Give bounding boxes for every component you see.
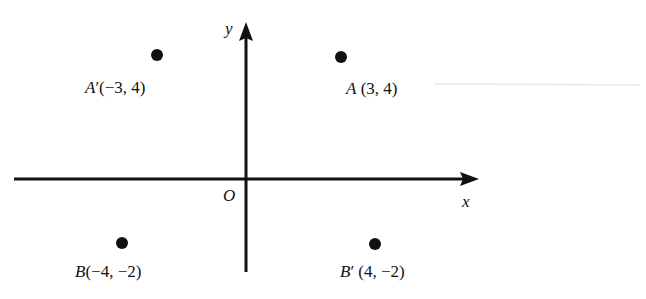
point-a-prime-letter: A	[85, 78, 95, 97]
point-a-letter: A	[346, 79, 356, 98]
coordinate-diagram: y x O A′(−3, 4) A (3, 4) B(−4, −2) B′ (4…	[0, 0, 646, 299]
point-b-letter: B	[75, 262, 85, 281]
x-axis-label: x	[462, 193, 470, 210]
point-b-prime-letter: B	[340, 262, 350, 281]
y-axis-label: y	[225, 20, 233, 37]
point-b-coords: (−4, −2)	[85, 262, 141, 281]
point-b-dot	[116, 237, 128, 249]
scan-artifact	[435, 84, 640, 85]
origin-label: O	[223, 187, 235, 204]
diagram-canvas	[0, 0, 646, 299]
point-b-prime-dot	[369, 238, 381, 250]
point-a-label: A (3, 4)	[346, 80, 397, 97]
point-a-prime-coords: (−3, 4)	[99, 78, 145, 97]
y-axis	[239, 22, 253, 272]
point-b-prime-mark: ′	[350, 262, 354, 281]
point-a-dot	[335, 51, 347, 63]
point-b-prime-coords: (4, −2)	[358, 262, 404, 281]
point-a-coords: (3, 4)	[361, 79, 398, 98]
point-a-prime-label: A′(−3, 4)	[85, 79, 146, 96]
point-b-prime-label: B′ (4, −2)	[340, 263, 405, 280]
point-a-prime-dot	[151, 49, 163, 61]
point-b-label: B(−4, −2)	[75, 263, 141, 280]
